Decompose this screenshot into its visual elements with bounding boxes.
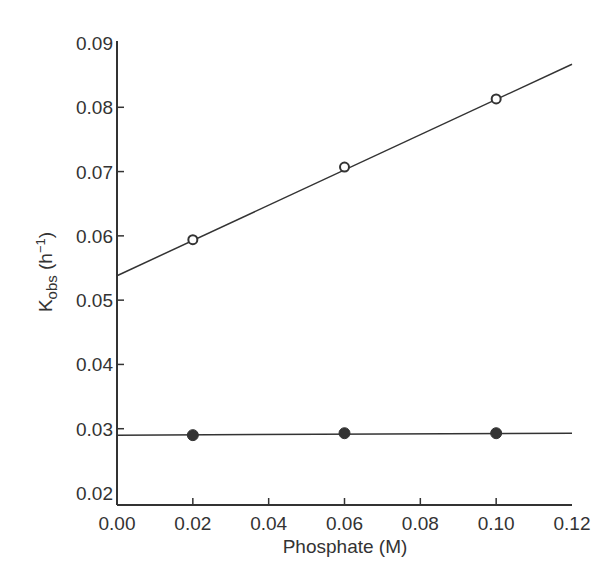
x-axis-ticks: 0.000.020.040.060.080.100.12 bbox=[99, 498, 591, 534]
y-label-unit-close: ) bbox=[35, 232, 56, 238]
x-tick-label: 0.04 bbox=[250, 513, 287, 534]
y-tick-label: 0.06 bbox=[76, 226, 113, 247]
x-tick-label: 0.00 bbox=[99, 513, 136, 534]
y-label-k: K bbox=[35, 299, 56, 312]
data-points bbox=[187, 94, 501, 440]
x-tick-label: 0.10 bbox=[478, 513, 515, 534]
x-tick-label: 0.06 bbox=[326, 513, 363, 534]
y-tick-label: 0.09 bbox=[76, 33, 113, 54]
y-tick-label: 0.04 bbox=[76, 354, 113, 375]
fit-lines bbox=[117, 64, 572, 435]
y-label-unit: (h bbox=[35, 253, 56, 275]
y-axis-label: Kobs (h−1) bbox=[33, 232, 60, 312]
open-circle-marker bbox=[188, 235, 197, 244]
x-tick-label: 0.02 bbox=[174, 513, 211, 534]
filled-circle-marker bbox=[491, 428, 502, 439]
y-label-superscript: −1 bbox=[33, 238, 48, 253]
y-tick-label: 0.02 bbox=[76, 483, 113, 504]
filled-circle-marker bbox=[339, 428, 350, 439]
y-tick-label: 0.07 bbox=[76, 162, 113, 183]
filled-circle-marker bbox=[187, 430, 198, 441]
x-tick-label: 0.12 bbox=[554, 513, 591, 534]
open-circle-marker bbox=[340, 163, 349, 172]
y-tick-label: 0.08 bbox=[76, 97, 113, 118]
y-label-subscript: obs bbox=[43, 275, 60, 299]
x-tick-label: 0.08 bbox=[402, 513, 439, 534]
open-circle-marker bbox=[492, 94, 501, 103]
chart: 0.020.030.040.050.060.070.080.09 0.000.0… bbox=[0, 0, 615, 584]
y-tick-label: 0.03 bbox=[76, 419, 113, 440]
y-tick-label: 0.05 bbox=[76, 290, 113, 311]
x-axis-label: Phosphate (M) bbox=[283, 536, 408, 557]
